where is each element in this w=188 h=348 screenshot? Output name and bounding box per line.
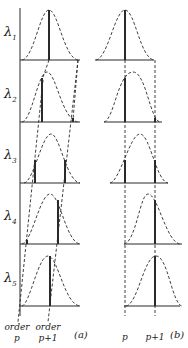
b-gaussian-4 xyxy=(124,194,180,244)
a-order-p-guide xyxy=(18,80,43,322)
lambda-5-label: λ5 xyxy=(4,270,17,288)
lambda-1-label: λ1 xyxy=(4,24,17,42)
a-gaussian-2 xyxy=(22,72,78,122)
a-gaussian-3 xyxy=(24,134,80,183)
a-order-p1-guide xyxy=(48,60,78,322)
a-order-p-guide-top xyxy=(42,60,49,80)
a-order-p1-guide-top xyxy=(73,60,78,120)
b-caption: (b) xyxy=(170,329,184,340)
lambda-4-label: λ4 xyxy=(4,208,17,226)
b-order-p1-label: p+1 xyxy=(144,332,166,343)
lambda-3-label: λ3 xyxy=(4,147,17,165)
a-caption: (a) xyxy=(74,329,88,340)
lambda-2-label: λ2 xyxy=(4,86,17,104)
a-order-p-label: order p xyxy=(2,322,32,344)
a-order-p1-label: order p+1 xyxy=(33,322,63,344)
b-gaussian-3 xyxy=(110,134,168,183)
b-gaussian-2 xyxy=(104,72,160,122)
b-order-p-label: p xyxy=(118,332,132,343)
diagram-canvas xyxy=(0,0,188,348)
